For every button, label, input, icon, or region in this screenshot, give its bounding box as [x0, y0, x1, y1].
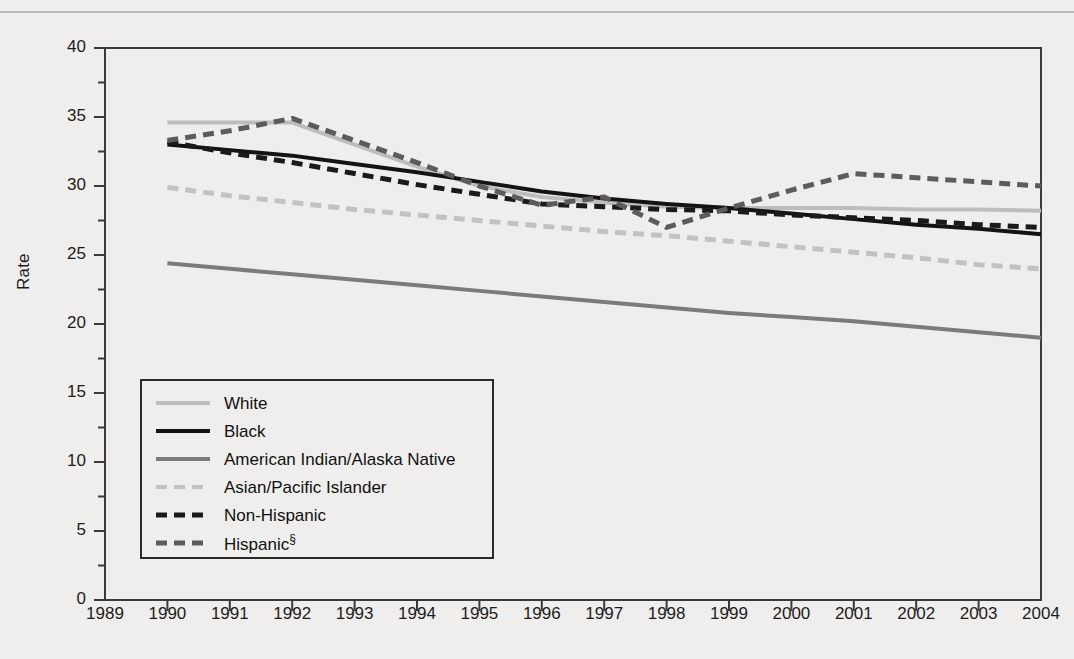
- legend-label: Hispanic§: [224, 533, 296, 553]
- x-tick-label: 1991: [200, 604, 260, 624]
- y-tick-label: 35: [46, 106, 86, 126]
- x-tick-label: 1994: [387, 604, 447, 624]
- y-tick-label: 5: [46, 520, 86, 540]
- legend-item: White: [156, 389, 492, 417]
- plot-area: [0, 0, 1074, 659]
- y-tick-label: 15: [46, 382, 86, 402]
- x-tick-label: 1995: [449, 604, 509, 624]
- legend-item: Asian/Pacific Islander: [156, 473, 492, 501]
- legend-label: Non-Hispanic: [224, 507, 326, 524]
- x-tick-label: 2002: [886, 604, 946, 624]
- legend-item: Black: [156, 417, 492, 445]
- legend-footnote-marker: §: [289, 532, 296, 546]
- legend-item: Non-Hispanic: [156, 501, 492, 529]
- legend-label: Asian/Pacific Islander: [224, 479, 387, 496]
- legend-swatch-icon: [156, 396, 210, 410]
- legend-item: Hispanic§: [156, 529, 492, 557]
- y-tick-label: 10: [46, 451, 86, 471]
- x-tick-label: 1997: [574, 604, 634, 624]
- y-tick-label: 40: [46, 37, 86, 57]
- y-tick-label: 25: [46, 244, 86, 264]
- x-tick-label: 1990: [137, 604, 197, 624]
- x-tick-label: 1989: [75, 604, 135, 624]
- chart-figure: Rate 0510152025303540 198919901991199219…: [0, 0, 1074, 659]
- x-tick-label: 2001: [824, 604, 884, 624]
- legend-swatch-icon: [156, 452, 210, 466]
- legend-label: White: [224, 395, 267, 412]
- legend-swatch-icon: [156, 508, 210, 522]
- data-series-group: [167, 118, 1041, 337]
- x-tick-label: 1993: [325, 604, 385, 624]
- x-tick-label: 1992: [262, 604, 322, 624]
- x-tick-label: 2000: [761, 604, 821, 624]
- x-tick-label: 2004: [1011, 604, 1071, 624]
- legend-swatch-icon: [156, 424, 210, 438]
- legend-swatch-icon: [156, 480, 210, 494]
- x-tick-label: 1999: [699, 604, 759, 624]
- legend-item: American Indian/Alaska Native: [156, 445, 492, 473]
- x-tick-label: 2003: [949, 604, 1009, 624]
- series-line: [167, 263, 1041, 338]
- x-tick-label: 1998: [637, 604, 697, 624]
- legend-label: Black: [224, 423, 266, 440]
- x-tick-label: 1996: [512, 604, 572, 624]
- y-tick-label: 30: [46, 175, 86, 195]
- chart-legend: WhiteBlackAmerican Indian/Alaska NativeA…: [140, 379, 494, 559]
- legend-swatch-icon: [156, 536, 210, 550]
- y-tick-label: 20: [46, 313, 86, 333]
- legend-label: American Indian/Alaska Native: [224, 451, 456, 468]
